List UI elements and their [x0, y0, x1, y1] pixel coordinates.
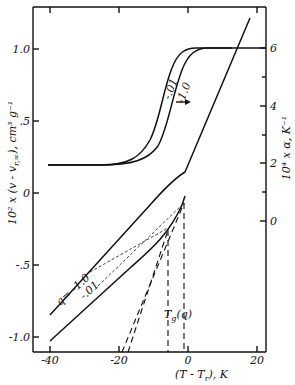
x-tick-label: -20 — [110, 354, 128, 367]
y-right-tick-label: 6 — [270, 42, 277, 55]
y-right-tick-label: 0 — [270, 215, 277, 228]
y-axis-left: 1.0 .5 0 -.5 -1.0 10² x (v - vr,∞), cm³ … — [6, 43, 39, 344]
x-tick-label: -40 — [41, 354, 59, 367]
y-right-tick-label: 2 — [269, 157, 277, 170]
x-tick-label: 0 — [185, 354, 192, 367]
chart-figure: -40 -20 0 20 (T - Tr), K 1.0 .5 0 -.5 -1… — [0, 0, 295, 385]
x-axis-title: (T - Tr), K — [175, 368, 229, 383]
alpha-curves — [48, 48, 266, 165]
y-left-tick-label: 0 — [23, 187, 30, 200]
y-left-tick-label: -.5 — [16, 259, 30, 272]
label-tg: Tg(q) — [164, 308, 192, 323]
y-left-tick-label: 1.0 — [13, 43, 31, 56]
alpha-curve-q-1.0 — [48, 48, 232, 165]
annotations: q= -1.0 -.01 -.01 -1.0 Tg(q) — [53, 77, 193, 323]
y-axis-right: 6 4 2 0 10⁴ x α, K⁻¹ — [260, 42, 293, 228]
y-right-axis-title: 10⁴ x α, K⁻¹ — [280, 116, 293, 180]
x-tick-label: 20 — [249, 354, 264, 367]
y-left-tick-label: .5 — [20, 115, 31, 128]
top-ticks — [50, 7, 257, 13]
y-left-axis-title: 10² x (v - vr,∞), cm³ g⁻¹ — [6, 101, 21, 225]
volume-curve-q-1.0 — [50, 18, 250, 315]
y-left-tick-label: -1.0 — [9, 331, 30, 344]
y-right-tick-label: 4 — [269, 100, 277, 113]
